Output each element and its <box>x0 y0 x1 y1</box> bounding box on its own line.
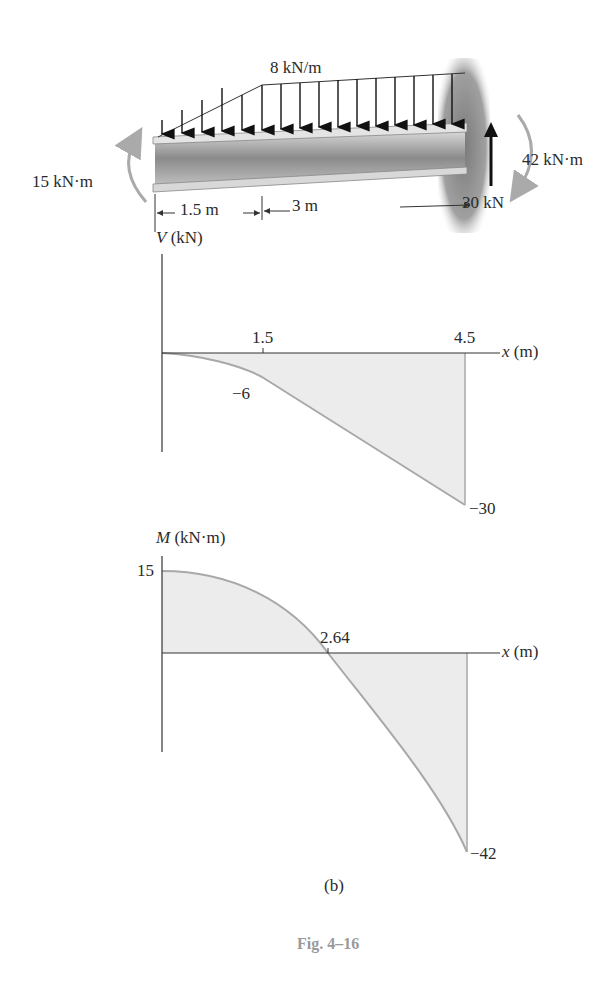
distributed-load-label: 8 kN/m <box>270 58 321 78</box>
shear-tick-4-5: 4.5 <box>454 328 475 348</box>
moment-value-end: −42 <box>470 844 497 864</box>
moment-zero-crossing: 2.64 <box>320 628 350 648</box>
shear-x-axis-label: x (m) <box>502 342 538 362</box>
moment-axis-label: M (kN·m) <box>156 528 225 548</box>
moment-value-start: 15 <box>137 561 154 581</box>
figure-graphics <box>0 0 614 992</box>
shear-value-mid: −6 <box>232 384 250 404</box>
left-moment-arrow-icon <box>129 140 146 202</box>
i-beam <box>153 123 467 192</box>
figure-caption: Fig. 4–16 <box>297 935 359 953</box>
dimension-right-label: 3 m <box>292 196 318 216</box>
dimension-left-label: 1.5 m <box>180 200 219 220</box>
right-moment-label: 42 kN·m <box>522 150 583 170</box>
moment-x-axis-label: x (m) <box>502 642 538 662</box>
subfigure-label: (b) <box>324 876 344 896</box>
shear-diagram <box>162 254 500 505</box>
reaction-force-label: 30 kN <box>462 193 504 213</box>
left-moment-label: 15 kN·m <box>32 172 93 192</box>
moment-diagram <box>162 556 500 852</box>
shear-tick-1-5: 1.5 <box>252 328 273 348</box>
shear-axis-label: V (kN) <box>156 228 203 248</box>
shear-value-end: −30 <box>469 499 496 519</box>
